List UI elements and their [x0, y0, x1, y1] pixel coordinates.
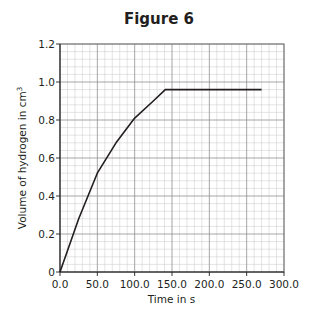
x-tick-label: 300.0	[269, 278, 299, 290]
line-chart: 0.050.0100.0150.0200.0250.0300.000.20.40…	[0, 0, 318, 328]
y-axis-label-main: Volume of hydrogen in cm	[16, 91, 28, 229]
y-tick-label: 0.4	[38, 190, 55, 202]
y-tick-label: 0	[48, 266, 55, 278]
y-tick-label: 1.0	[38, 76, 55, 88]
y-tick-label: 0.2	[38, 228, 55, 240]
x-tick-label: 200.0	[194, 278, 224, 290]
x-tick-label: 250.0	[232, 278, 262, 290]
y-tick-label: 0.6	[38, 152, 55, 164]
x-tick-label: 0.0	[52, 278, 69, 290]
y-tick-label: 0.8	[38, 114, 55, 126]
tick-labels: 0.050.0100.0150.0200.0250.0300.000.20.40…	[38, 38, 299, 290]
y-tick-label: 1.2	[38, 38, 55, 50]
x-tick-label: 150.0	[157, 278, 187, 290]
x-tick-label: 100.0	[120, 278, 150, 290]
y-axis-label-superscript: 3	[16, 87, 24, 91]
x-tick-label: 50.0	[86, 278, 109, 290]
y-axis-label: Volume of hydrogen in cm3	[16, 87, 28, 229]
x-axis-label: Time in s	[147, 293, 195, 305]
major-gridlines	[60, 44, 284, 272]
